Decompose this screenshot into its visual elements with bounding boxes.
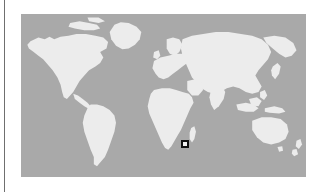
world-map-graphic [21, 14, 306, 177]
figure-root [0, 0, 322, 192]
world-map-frame [21, 14, 306, 177]
study-site-marker [181, 140, 189, 148]
margin-rule-line [4, 0, 5, 192]
